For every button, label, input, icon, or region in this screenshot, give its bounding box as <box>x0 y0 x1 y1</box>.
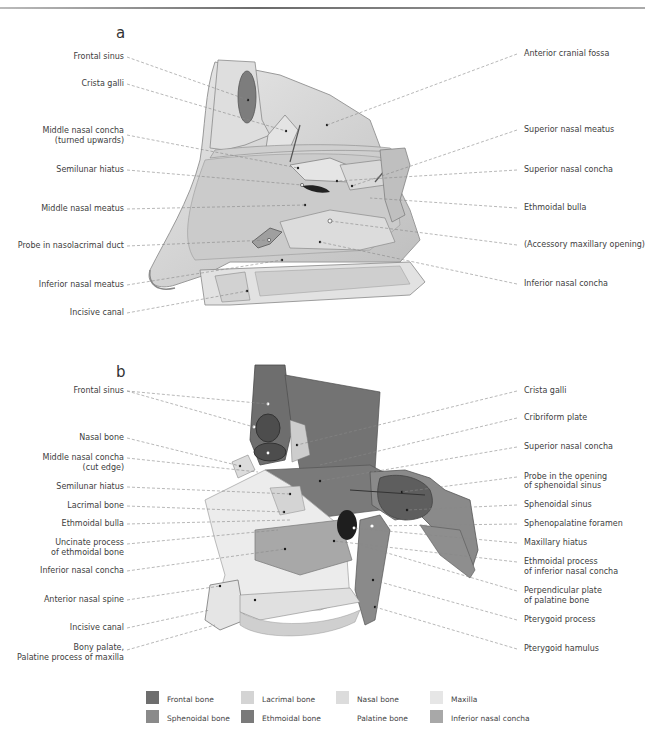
legend-label: Maxilla <box>451 695 477 704</box>
legend-label: Sphenoidal bone <box>167 714 230 723</box>
label-palatine-process-b: Palatine process of maxilla <box>17 653 124 663</box>
legend-label: Frontal bone <box>167 695 214 704</box>
label-superior-nasal-meatus-a: Superior nasal meatus <box>524 125 614 135</box>
label-frontal-sinus-a: Frontal sinus <box>73 52 124 62</box>
label-perpendicular-plate-b-line2: of palatine bone <box>524 596 589 606</box>
legend-label: Lacrimal bone <box>262 695 315 704</box>
label-sphenopalatine-foramen-b: Sphenopalatine foramen <box>524 519 623 529</box>
label-lacrimal-bone-b: Lacrimal bone <box>67 501 124 511</box>
label-crista-galli-a: Crista galli <box>82 79 125 89</box>
label-frontal-sinus-b: Frontal sinus <box>73 386 124 396</box>
label-middle-nasal-meatus-a: Middle nasal meatus <box>41 204 124 214</box>
label-probe-sphenoidal-b-line2: of sphenoidal sinus <box>524 481 601 491</box>
label-bony-palate-b: Bony palate, <box>74 643 124 653</box>
label-perpendicular-plate-b: Perpendicular plate <box>524 586 602 596</box>
label-uncinate-process-b: Uncinate process <box>55 538 124 548</box>
label-middle-nasal-concha-b-note: (cut edge) <box>83 463 124 473</box>
label-inferior-nasal-concha-b: Inferior nasal concha <box>40 566 124 576</box>
swatch-frontal-bone <box>146 691 159 704</box>
panel-a-letter: a <box>116 24 125 42</box>
label-superior-nasal-concha-a: Superior nasal concha <box>524 165 613 175</box>
label-crista-galli-b: Crista galli <box>524 386 567 396</box>
label-ethmoidal-process-b: Ethmoidal process <box>524 557 598 567</box>
legend-label: Palatine bone <box>357 714 408 723</box>
legend-label: Ethmoidal bone <box>262 714 321 723</box>
label-anterior-cranial-fossa-a: Anterior cranial fossa <box>524 49 609 59</box>
label-semilunar-hiatus-a: Semilunar hiatus <box>56 165 124 175</box>
label-accessory-maxillary-opening-a: (Accessory maxillary opening) <box>524 240 645 250</box>
label-superior-nasal-concha-b: Superior nasal concha <box>524 442 613 452</box>
label-inferior-nasal-concha-a: Inferior nasal concha <box>524 279 608 289</box>
panel-b-letter: b <box>116 363 126 381</box>
label-middle-nasal-concha-a-note: (turned upwards) <box>55 136 124 146</box>
legend-label: Nasal bone <box>357 695 399 704</box>
legend: Frontal bone Lacrimal bone Nasal bone Ma… <box>146 691 626 731</box>
label-sphenoidal-sinus-b: Sphenoidal sinus <box>524 500 592 510</box>
swatch-palatine-bone <box>336 710 349 723</box>
label-inferior-nasal-meatus-a: Inferior nasal meatus <box>39 280 124 290</box>
legend-item-palatine-bone: Palatine bone <box>336 710 408 723</box>
label-anterior-nasal-spine-b: Anterior nasal spine <box>44 595 124 605</box>
legend-item-ethmoidal-bone: Ethmoidal bone <box>241 710 321 723</box>
label-incisive-canal-a: Incisive canal <box>70 308 124 318</box>
label-pterygoid-hamulus-b: Pterygoid hamulus <box>524 644 599 654</box>
label-maxillary-hiatus-b: Maxillary hiatus <box>524 538 587 548</box>
legend-item-inferior-nasal-concha: Inferior nasal concha <box>430 710 530 723</box>
legend-item-lacrimal-bone: Lacrimal bone <box>241 691 315 704</box>
label-nasal-bone-b: Nasal bone <box>79 433 124 443</box>
swatch-inferior-nasal-concha <box>430 710 443 723</box>
swatch-maxilla <box>430 691 443 704</box>
legend-label: Inferior nasal concha <box>451 714 530 723</box>
label-semilunar-hiatus-b: Semilunar hiatus <box>56 482 124 492</box>
legend-item-nasal-bone: Nasal bone <box>336 691 399 704</box>
label-probe-nasolacrimal-a: Probe in nasolacrimal duct <box>18 241 124 251</box>
panel-b-illustration <box>205 365 478 636</box>
swatch-nasal-bone <box>336 691 349 704</box>
label-ethmoidal-bulla-b: Ethmoidal bulla <box>62 519 124 529</box>
legend-item-sphenoidal-bone: Sphenoidal bone <box>146 710 230 723</box>
swatch-sphenoidal-bone <box>146 710 159 723</box>
label-pterygoid-process-b: Pterygoid process <box>524 615 595 625</box>
label-ethmoidal-process-b-line2: of inferior nasal concha <box>524 567 618 577</box>
swatch-lacrimal-bone <box>241 691 254 704</box>
label-cribriform-plate-b: Cribriform plate <box>524 413 587 423</box>
label-middle-nasal-concha-b: Middle nasal concha <box>42 453 124 463</box>
swatch-ethmoidal-bone <box>241 710 254 723</box>
label-uncinate-process-b-line2: of ethmoidal bone <box>51 548 124 558</box>
legend-item-maxilla: Maxilla <box>430 691 477 704</box>
panel-a-illustration <box>149 60 425 305</box>
label-incisive-canal-b: Incisive canal <box>70 623 124 633</box>
label-middle-nasal-concha-a: Middle nasal concha <box>42 126 124 136</box>
legend-item-frontal-bone: Frontal bone <box>146 691 214 704</box>
label-ethmoidal-bulla-a: Ethmoidal bulla <box>524 203 586 213</box>
